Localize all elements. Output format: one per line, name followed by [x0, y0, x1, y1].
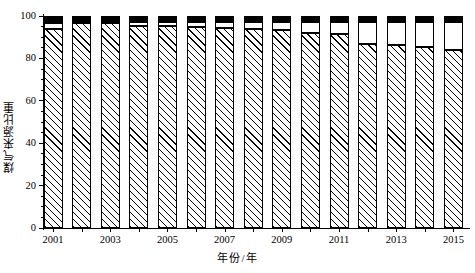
bar-2001 [44, 16, 63, 228]
x-tick-label: 2003 [100, 234, 121, 245]
bar-2015 [444, 16, 463, 228]
x-tick-mark [53, 228, 54, 232]
x-tick-mark [453, 228, 454, 232]
bar-2010 [301, 16, 320, 228]
bar-segment-hatched [158, 26, 177, 228]
bar-segment-white [301, 22, 320, 33]
x-tick-mark [425, 228, 426, 232]
bar-segment-hatched [101, 23, 120, 228]
bar-segment-hatched [272, 30, 291, 228]
bar-2006 [187, 16, 206, 228]
bar-segment-black [72, 16, 91, 22]
x-tick-mark [282, 228, 283, 232]
x-tick-mark [368, 228, 369, 232]
x-tick-mark [82, 228, 83, 232]
x-tick-label: 2001 [43, 234, 64, 245]
bar-segment-black [301, 16, 320, 22]
bar-segment-white [330, 22, 349, 34]
bar-2004 [129, 16, 148, 228]
bar-segment-white [387, 22, 406, 44]
bar-segment-black [244, 16, 263, 22]
bar-2005 [158, 16, 177, 228]
bar-segment-hatched [415, 47, 434, 228]
x-tick-mark [196, 228, 197, 232]
bar-segment-white [244, 22, 263, 28]
y-tick-label: 0 [31, 221, 36, 234]
y-tick-label: 60 [26, 94, 37, 107]
bar-segment-hatched [301, 33, 320, 228]
bar-segment-black [215, 16, 234, 22]
x-tick-label: 2011 [329, 234, 350, 245]
bar-segment-hatched [44, 29, 63, 228]
x-axis-title: 年份/年 [0, 249, 475, 265]
x-tick-mark [253, 228, 254, 232]
x-axis-line [43, 228, 470, 229]
x-tick-mark [339, 228, 340, 232]
x-tick-mark [110, 228, 111, 232]
bar-segment-black [444, 16, 463, 22]
bar-segment-hatched [244, 29, 263, 228]
bar-segment-white [272, 22, 291, 29]
bar-segment-white [444, 22, 463, 50]
x-tick-mark [139, 228, 140, 232]
y-tick-label: 20 [26, 179, 37, 192]
bar-segment-black [358, 16, 377, 22]
bar-segment-white [358, 22, 377, 43]
plot-area [43, 16, 468, 228]
bar-segment-hatched [358, 44, 377, 228]
bar-segment-hatched [444, 50, 463, 228]
bar-segment-white [158, 22, 177, 25]
bar-2007 [215, 16, 234, 228]
bar-segment-black [272, 16, 291, 22]
x-tick-label: 2009 [271, 234, 292, 245]
bar-segment-white [129, 22, 148, 25]
x-tick-mark [396, 228, 397, 232]
bar-segment-white [215, 22, 234, 27]
bar-segment-black [330, 16, 349, 22]
x-tick-label: 2007 [214, 234, 235, 245]
bar-segment-black [101, 16, 120, 22]
bar-segment-hatched [215, 28, 234, 228]
bar-2013 [387, 16, 406, 228]
chart-container: 煤气来源比重 020406080100 20012003200520072009… [0, 0, 475, 273]
bar-segment-hatched [187, 27, 206, 228]
x-tick-mark [225, 228, 226, 232]
bar-segment-white [44, 23, 63, 28]
bar-2011 [330, 16, 349, 228]
bar-segment-hatched [72, 23, 91, 228]
bar-segment-black [187, 16, 206, 22]
x-tick-label: 2013 [386, 234, 407, 245]
bar-segment-black [158, 16, 177, 22]
y-tick-label: 40 [26, 136, 37, 149]
bar-2002 [72, 16, 91, 228]
y-tick-label: 100 [20, 9, 36, 22]
y-axis-title: 煤气来源比重 [0, 0, 18, 273]
bar-segment-black [415, 16, 434, 22]
bar-segment-black [387, 16, 406, 22]
bar-segment-hatched [330, 34, 349, 228]
bar-2014 [415, 16, 434, 228]
x-tick-mark [167, 228, 168, 232]
bar-2009 [272, 16, 291, 228]
bar-segment-white [187, 22, 206, 26]
bar-segment-hatched [387, 45, 406, 228]
bar-2003 [101, 16, 120, 228]
y-tick-label: 80 [26, 51, 37, 64]
bar-2008 [244, 16, 263, 228]
x-tick-label: 2015 [443, 234, 464, 245]
x-tick-label: 2005 [157, 234, 178, 245]
bar-segment-black [129, 16, 148, 22]
bar-segment-white [415, 22, 434, 46]
x-tick-mark [310, 228, 311, 232]
bar-segment-black [44, 16, 63, 23]
bar-segment-hatched [129, 26, 148, 228]
bar-2012 [358, 16, 377, 228]
